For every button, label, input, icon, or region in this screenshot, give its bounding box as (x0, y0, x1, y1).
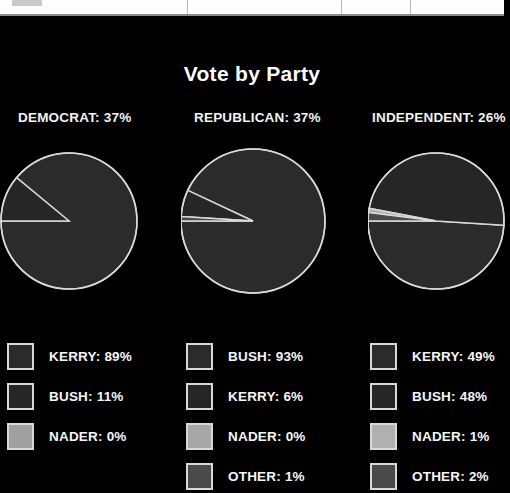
legend-democrat: KERRY: 89%BUSH: 11%NADER: 0% (0, 336, 175, 456)
toolbar-divider-1 (341, 0, 342, 14)
pie-svg-democrat (0, 137, 143, 295)
legend-item-nader[interactable]: NADER: 0% (0, 416, 175, 456)
legend-label-bush: BUSH: 48% (412, 389, 487, 404)
page-title: Vote by Party (0, 62, 504, 86)
legend-item-nader[interactable]: NADER: 0% (181, 416, 356, 456)
toolbar-divider-0 (187, 0, 188, 14)
legend-swatch-other (186, 463, 213, 490)
legend-item-bush[interactable]: BUSH: 48% (360, 376, 504, 416)
legend-item-nader[interactable]: NADER: 1% (360, 416, 504, 456)
legend-item-kerry[interactable]: KERRY: 49% (360, 336, 504, 376)
legend-label-nader: NADER: 0% (49, 429, 127, 444)
toolbar-divider-2 (410, 0, 411, 14)
legend-label-kerry: KERRY: 49% (412, 349, 495, 364)
pie-panel-democrat: DEMOCRAT: 37% KERRY: 89%BUSH: 11%NADER: … (0, 110, 175, 297)
legend-swatch-nader (370, 423, 397, 450)
legend-item-kerry[interactable]: KERRY: 6% (181, 376, 356, 416)
pie-panel-republican: REPUBLICAN: 37% BUSH: 93%KERRY: 6%NADER:… (181, 110, 356, 297)
legend-label-other: OTHER: 2% (412, 469, 489, 484)
pie-chart-independent (360, 137, 504, 297)
legend-label-other: OTHER: 1% (228, 469, 305, 484)
toolbar-chip (12, 0, 42, 6)
pie-svg-republican (181, 137, 331, 299)
legend-item-bush[interactable]: BUSH: 93% (181, 336, 356, 376)
legend-swatch-kerry (186, 383, 213, 410)
legend-label-nader: NADER: 1% (412, 429, 490, 444)
partial-toolbar (0, 0, 504, 16)
legend-swatch-kerry (370, 343, 397, 370)
legend-label-kerry: KERRY: 6% (228, 389, 303, 404)
legend-swatch-kerry (7, 343, 34, 370)
legend-label-kerry: KERRY: 89% (49, 349, 132, 364)
legend-swatch-other (370, 463, 397, 490)
legend-republican: BUSH: 93%KERRY: 6%NADER: 0%OTHER: 1% (181, 336, 356, 493)
pie-chart-democrat (0, 137, 175, 297)
legend-swatch-bush (7, 383, 34, 410)
legend-swatch-bush (186, 343, 213, 370)
legend-swatch-nader (186, 423, 213, 450)
legend-item-bush[interactable]: BUSH: 11% (0, 376, 175, 416)
legend-label-nader: NADER: 0% (228, 429, 306, 444)
legend-item-kerry[interactable]: KERRY: 89% (0, 336, 175, 376)
legend-swatch-nader (7, 423, 34, 450)
panel-header-republican: REPUBLICAN: 37% (181, 110, 356, 125)
pie-slice-kerry (368, 221, 504, 289)
legend-label-bush: BUSH: 93% (228, 349, 303, 364)
legend-independent: KERRY: 49%BUSH: 48%NADER: 1%OTHER: 2% (360, 336, 504, 493)
pie-svg-independent (368, 137, 510, 295)
panel-header-democrat: DEMOCRAT: 37% (0, 110, 175, 125)
legend-swatch-bush (370, 383, 397, 410)
legend-label-bush: BUSH: 11% (49, 389, 124, 404)
pie-chart-republican (181, 137, 356, 297)
panel-header-independent: INDEPENDENT: 26% (360, 110, 504, 125)
pie-panel-independent: INDEPENDENT: 26% KERRY: 49%BUSH: 48%NADE… (360, 110, 504, 297)
legend-item-other[interactable]: OTHER: 1% (181, 456, 356, 493)
legend-item-other[interactable]: OTHER: 2% (360, 456, 504, 493)
